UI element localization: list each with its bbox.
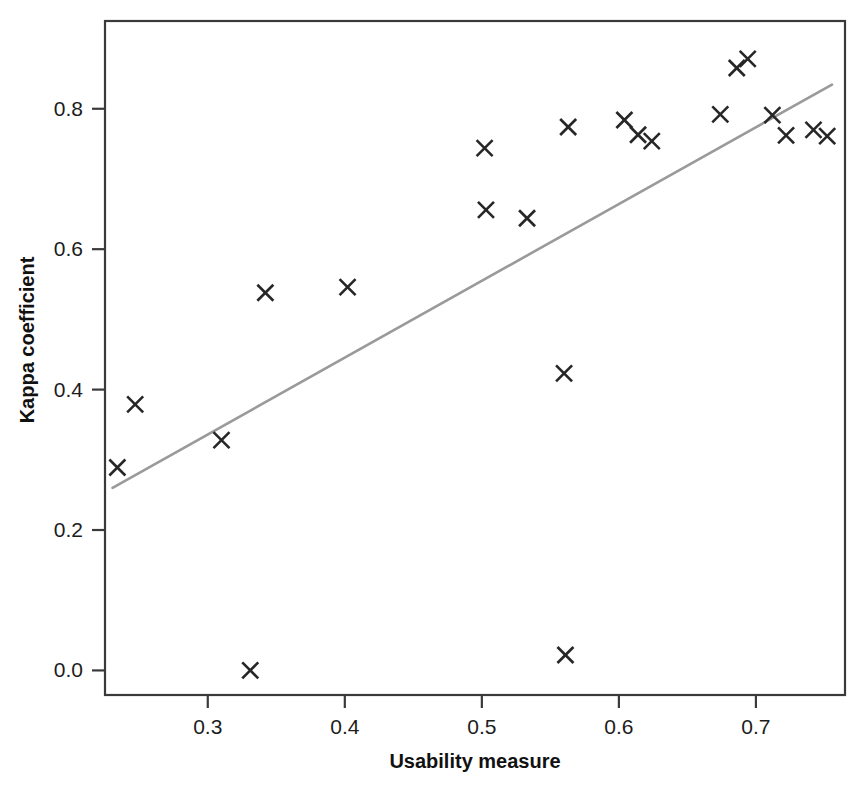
data-point-marker — [519, 210, 535, 226]
data-point-marker — [740, 51, 756, 67]
y-axis-title: Kappa coefficient — [16, 256, 38, 423]
y-tick-label: 0.8 — [54, 97, 83, 120]
data-point-marker — [257, 285, 273, 301]
y-tick-label: 0.2 — [54, 518, 83, 541]
plot-frame — [105, 21, 845, 695]
data-point-marker — [557, 647, 573, 663]
data-point-marker — [477, 140, 493, 156]
x-axis: 0.30.40.50.60.7 — [193, 695, 770, 738]
x-tick-label: 0.5 — [467, 715, 496, 738]
scatter-plot-figure: 0.00.20.40.60.8 0.30.40.50.60.7 Usabilit… — [0, 0, 852, 800]
trend-line-layer — [113, 85, 832, 488]
data-point-marker — [712, 106, 728, 122]
x-tick-label: 0.7 — [741, 715, 770, 738]
data-point-marker — [560, 119, 576, 135]
y-tick-label: 0.0 — [54, 658, 83, 681]
x-tick-label: 0.6 — [604, 715, 633, 738]
data-point-marker — [213, 432, 229, 448]
data-point-marker — [109, 460, 125, 476]
y-tick-label: 0.6 — [54, 237, 83, 260]
data-point-marker — [616, 112, 632, 128]
chart-canvas: 0.00.20.40.60.8 0.30.40.50.60.7 Usabilit… — [0, 0, 852, 800]
data-point-marker — [340, 279, 356, 295]
data-point-marker — [127, 396, 143, 412]
y-tick-label: 0.4 — [54, 378, 84, 401]
y-axis: 0.00.20.40.60.8 — [54, 97, 105, 682]
data-point-marker — [556, 365, 572, 381]
data-point-marker — [778, 127, 794, 143]
data-point-marker — [242, 662, 258, 678]
x-axis-title: Usability measure — [389, 750, 560, 772]
x-tick-label: 0.4 — [330, 715, 360, 738]
x-tick-label: 0.3 — [193, 715, 222, 738]
data-point-marker — [478, 202, 494, 218]
trend-line — [113, 85, 832, 488]
